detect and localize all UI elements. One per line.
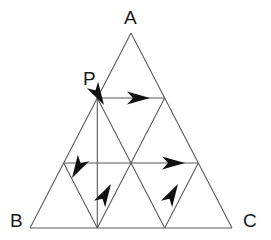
vertex-label-B: B bbox=[10, 211, 23, 230]
geometry-figure: A B C P bbox=[0, 0, 271, 240]
arrowheads-group bbox=[66, 82, 185, 207]
point-label-P: P bbox=[83, 69, 96, 88]
side-AC bbox=[131, 33, 232, 228]
parallel-AC-line-2 bbox=[64, 163, 98, 228]
vertex-label-C: C bbox=[243, 211, 257, 230]
vertex-label-A: A bbox=[124, 8, 137, 27]
arrow-lower-left-up-icon bbox=[66, 155, 89, 181]
triangle-outline-group bbox=[30, 33, 232, 228]
triangle-grid-svg bbox=[0, 0, 271, 240]
side-AB bbox=[30, 33, 131, 228]
arrow-lower-right-down-icon bbox=[161, 181, 184, 207]
